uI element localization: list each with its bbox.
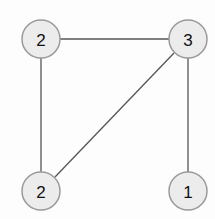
node-label: 1 [183,183,192,202]
node-label: 2 [36,31,45,50]
graph-diagram: 2 3 2 1 [0,0,215,219]
node-label: 3 [183,31,192,50]
node-top-right: 3 [169,20,207,58]
node-label: 2 [36,183,45,202]
node-top-left: 2 [22,20,60,58]
edge-n2-n3 [55,53,174,177]
node-bottom-right: 1 [169,172,207,210]
edges [41,39,188,177]
node-bottom-left: 2 [22,172,60,210]
